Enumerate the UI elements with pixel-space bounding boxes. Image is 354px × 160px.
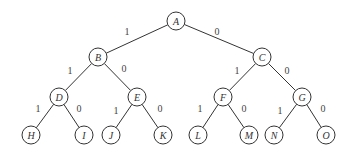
node-B: B [89, 48, 107, 66]
node-label: E [133, 92, 140, 103]
edge-C-G [268, 63, 295, 90]
node-label: F [219, 92, 227, 103]
edge-labels: 10101010101010 [36, 26, 326, 116]
node-label: K [159, 130, 168, 141]
node-label: C [259, 52, 266, 63]
edge-label-G-N: 1 [278, 105, 283, 116]
edge-label-E-K: 0 [158, 103, 163, 114]
node-F: F [214, 88, 232, 106]
edge-B-E [104, 63, 130, 90]
node-label: G [298, 92, 305, 103]
node-H: H [22, 126, 40, 144]
edge-label-B-E: 0 [122, 63, 127, 74]
binary-tree-diagram: 10101010101010 ABCDEFGHIJKLMNO [0, 0, 354, 160]
node-L: L [189, 126, 207, 144]
edge-label-F-L: 1 [198, 103, 203, 114]
edge-label-C-G: 0 [285, 65, 290, 76]
tree-nodes: ABCDEFGHIJKLMNO [22, 12, 335, 144]
node-I: I [75, 126, 93, 144]
edge-C-F [229, 63, 255, 90]
node-K: K [154, 126, 172, 144]
node-label: O [322, 130, 329, 141]
edge-label-D-H: 1 [36, 103, 41, 114]
node-label: L [194, 130, 201, 141]
node-N: N [265, 126, 283, 144]
node-label: N [270, 130, 279, 141]
node-label: B [95, 52, 101, 63]
edge-G-O [307, 105, 321, 128]
edge-label-A-C: 0 [215, 26, 220, 37]
node-E: E [128, 88, 146, 106]
edge-label-A-B: 1 [125, 26, 130, 37]
edge-label-C-F: 1 [235, 65, 240, 76]
node-label: A [172, 16, 180, 27]
node-M: M [240, 126, 258, 144]
node-G: G [293, 88, 311, 106]
edge-label-B-D: 1 [68, 65, 73, 76]
edge-label-F-M: 0 [242, 103, 247, 114]
edge-label-D-I: 0 [77, 103, 82, 114]
node-label: M [244, 130, 254, 141]
node-A: A [167, 12, 185, 30]
node-D: D [50, 88, 68, 106]
edge-label-G-O: 0 [321, 103, 326, 114]
edge-label-E-J: 1 [114, 105, 119, 116]
node-label: D [54, 92, 63, 103]
edge-E-K [142, 104, 158, 127]
node-label: H [26, 130, 35, 141]
node-label: I [81, 130, 86, 141]
node-J: J [102, 126, 120, 144]
edge-F-L [203, 105, 218, 128]
node-label: J [109, 130, 114, 141]
node-O: O [317, 126, 335, 144]
edge-A-B [106, 25, 168, 53]
node-C: C [253, 48, 271, 66]
